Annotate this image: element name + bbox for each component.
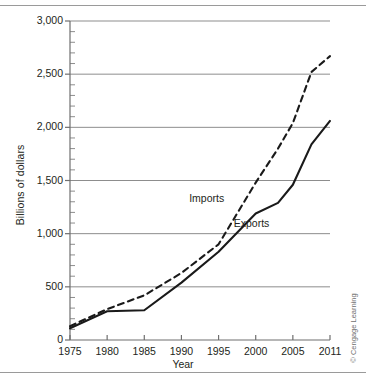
y-axis-tick-label: 0 <box>57 333 63 345</box>
y-axis-tick-label: 2,000 <box>37 120 63 132</box>
y-axis-major-ticks <box>65 21 70 340</box>
y-axis-tick-label: 2,500 <box>37 67 63 79</box>
series-annotation-exports: Exports <box>234 217 270 229</box>
x-axis-ticks <box>70 335 330 340</box>
gridline-group <box>70 21 330 287</box>
copyright-credit: © Cengage Learning <box>349 293 358 362</box>
series-line-exports <box>70 121 330 328</box>
y-axis-tick-label: 1,500 <box>37 174 63 186</box>
x-axis-title: Year <box>0 358 366 370</box>
y-axis-tick-label: 1,000 <box>37 227 63 239</box>
y-axis-tick-label: 3,000 <box>37 14 63 26</box>
series-annotation-imports: Imports <box>189 192 224 204</box>
y-axis-tick-label: 500 <box>45 280 63 292</box>
copyright-credit-wrapper: © Cengage Learning <box>344 285 362 370</box>
y-axis-title-wrapper: Billions of dollars <box>10 120 30 250</box>
line-chart-plot <box>0 0 366 387</box>
figure-container: 05001,0001,5002,0002,5003,000 1975198019… <box>0 0 366 387</box>
y-axis-title: Billions of dollars <box>14 145 26 226</box>
